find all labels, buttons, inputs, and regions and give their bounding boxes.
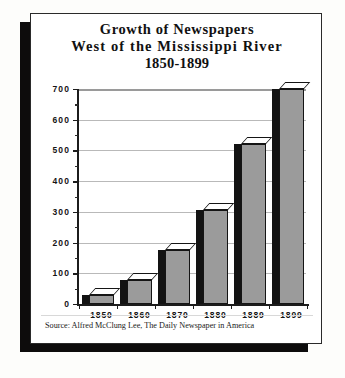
chart-title: Growth of Newspapers West of the Mississ… xyxy=(31,21,323,72)
y-axis-label: 100 xyxy=(53,268,70,278)
bar xyxy=(158,250,190,304)
bar xyxy=(234,144,266,304)
y-axis-label: 600 xyxy=(53,115,70,125)
bar-top-face xyxy=(279,82,310,89)
x-axis-tick xyxy=(79,304,80,309)
bar-top-face xyxy=(89,288,120,295)
y-axis-label: 500 xyxy=(53,145,70,155)
y-axis-tick xyxy=(73,304,78,305)
figure-wrapper: Growth of Newspapers West of the Mississ… xyxy=(0,0,345,378)
x-axis-tick xyxy=(269,304,270,309)
bar-top-face xyxy=(241,137,272,144)
bar-series xyxy=(78,89,306,304)
y-axis-label: 400 xyxy=(53,176,70,186)
y-axis-label: 0 xyxy=(64,299,70,309)
plot-area: 0100200300400500600700 18501860187018801… xyxy=(78,89,306,304)
bar-front-face xyxy=(127,280,152,304)
bar-front-face xyxy=(241,144,266,304)
bar-front-face xyxy=(89,295,114,304)
y-axis-label: 300 xyxy=(53,207,70,217)
chart-title-line-3: 1850-1899 xyxy=(31,55,323,72)
bar-front-face xyxy=(279,89,304,304)
bar-front-face xyxy=(203,210,228,304)
bar-side-face xyxy=(196,210,203,304)
chart-title-line-2: West of the Mississippi River xyxy=(31,38,323,55)
y-axis-label: 700 xyxy=(53,84,70,94)
bar-top-face xyxy=(127,273,158,280)
chart-title-line-1: Growth of Newspapers xyxy=(31,21,323,38)
bar xyxy=(196,210,228,304)
bar-top-face xyxy=(203,203,234,210)
bar-side-face xyxy=(158,250,165,304)
source-divider xyxy=(41,315,313,316)
bar-side-face xyxy=(272,89,279,304)
chart-panel: Growth of Newspapers West of the Mississ… xyxy=(30,13,322,344)
bar-top-face xyxy=(165,243,196,250)
x-axis-tick xyxy=(193,304,194,309)
x-axis-tick xyxy=(307,304,308,309)
bar-front-face xyxy=(165,250,190,304)
source-note: Source: Alfred McClung Lee, The Daily Ne… xyxy=(45,321,254,330)
x-axis-tick xyxy=(117,304,118,309)
bar-side-face xyxy=(82,295,89,304)
bar xyxy=(82,295,114,304)
y-axis-label: 200 xyxy=(53,238,70,248)
bar xyxy=(120,280,152,304)
bar-side-face xyxy=(120,280,127,304)
bar xyxy=(272,89,304,304)
x-axis-tick xyxy=(155,304,156,309)
bar-side-face xyxy=(234,144,241,304)
x-axis-tick xyxy=(231,304,232,309)
